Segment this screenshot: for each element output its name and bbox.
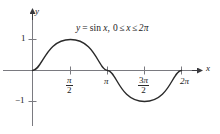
- fraction-numerator: π: [66, 76, 73, 85]
- plot-canvas: [0, 0, 220, 134]
- fraction-3pi-over-2: 3π 2: [138, 76, 149, 96]
- fraction-numerator: 3π: [138, 76, 149, 85]
- xtick-label-2pi: 2π: [180, 77, 189, 86]
- xtick-label-pi-over-2: π 2: [66, 76, 73, 96]
- sine-graph-figure: y x 1 −1 π 2 π 3π 2 2π y=sinx,0≤x≤2π: [0, 0, 220, 134]
- xtick-label-3pi-over-2: 3π 2: [138, 76, 149, 96]
- equation-domain-low: 0: [113, 23, 118, 33]
- fraction-pi-over-2: π 2: [66, 76, 73, 96]
- xtick-label-pi: π: [104, 77, 109, 86]
- equation-equals: =: [82, 23, 87, 33]
- equation-annotation: y=sinx,0≤x≤2π: [76, 24, 149, 34]
- y-axis-label: y: [35, 7, 39, 16]
- equation-comma: ,: [108, 23, 110, 33]
- equation-domain-variable: x: [126, 23, 130, 33]
- equation-lhs: y: [76, 23, 80, 33]
- ytick-label-1: 1: [21, 34, 26, 43]
- x-axis-label: x: [206, 64, 210, 73]
- ytick-label-minus-1: −1: [15, 96, 25, 105]
- fraction-pi-symbol: π: [144, 75, 149, 85]
- equation-le-second: ≤: [132, 23, 137, 33]
- equation-le-first: ≤: [119, 23, 124, 33]
- fraction-denominator: 2: [138, 85, 149, 95]
- equation-domain-high: 2π: [139, 23, 149, 33]
- fraction-denominator: 2: [66, 85, 73, 95]
- equation-function: sin: [90, 23, 101, 33]
